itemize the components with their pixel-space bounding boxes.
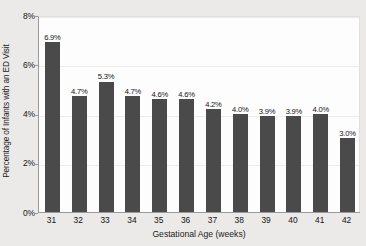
- bar-value-label: 4.7%: [66, 87, 93, 96]
- plot-area: 6.9%4.7%5.3%4.7%4.6%4.6%4.2%4.0%3.9%3.9%…: [38, 16, 360, 213]
- bar-value-label: 3.9%: [254, 107, 281, 116]
- x-axis-line: [38, 212, 360, 213]
- bar-value-label: 3.0%: [334, 129, 361, 138]
- y-tick-label: 4%: [13, 110, 35, 119]
- x-axis-ticks: 313233343536373839404142: [38, 215, 360, 229]
- bar-value-label: 5.3%: [93, 72, 120, 81]
- x-tick-label: 37: [199, 215, 226, 226]
- bar: [72, 96, 87, 212]
- y-tick-label: 6%: [13, 61, 35, 70]
- y-axis-ticks: 0%2%4%6%8%: [10, 0, 35, 246]
- x-tick-label: 41: [306, 215, 333, 226]
- bar-value-label: 4.2%: [200, 100, 227, 109]
- x-tick-label: 42: [333, 215, 360, 226]
- bars-layer: 6.9%4.7%5.3%4.7%4.6%4.6%4.2%4.0%3.9%3.9%…: [39, 17, 359, 212]
- x-axis-title: Gestational Age (weeks): [38, 229, 360, 240]
- bar: [233, 114, 248, 213]
- x-tick-label: 39: [253, 215, 280, 226]
- y-tick-label: 0%: [13, 209, 35, 218]
- bar-value-label: 4.6%: [146, 90, 173, 99]
- x-tick-label: 33: [92, 215, 119, 226]
- bar: [340, 138, 355, 212]
- x-tick-label: 40: [280, 215, 307, 226]
- x-tick-label: 32: [65, 215, 92, 226]
- bar-value-label: 6.9%: [39, 33, 66, 42]
- bar: [286, 116, 301, 212]
- x-tick-label: 35: [145, 215, 172, 226]
- bar: [152, 99, 167, 212]
- bar: [125, 96, 140, 212]
- x-tick-label: 36: [172, 215, 199, 226]
- bar-value-label: 4.0%: [227, 105, 254, 114]
- bar: [179, 99, 194, 212]
- bar: [45, 42, 60, 212]
- bar-value-label: 4.7%: [120, 87, 147, 96]
- bar-value-label: 4.0%: [307, 105, 334, 114]
- y-tick-label: 8%: [13, 12, 35, 21]
- bar-value-label: 4.6%: [173, 90, 200, 99]
- bar-value-label: 3.9%: [281, 107, 308, 116]
- bar-chart: Percentage of Infants with an ED Visit 0…: [0, 0, 366, 246]
- y-tick-label: 2%: [13, 159, 35, 168]
- y-tick-mark: [35, 213, 38, 214]
- bar: [206, 109, 221, 212]
- bar: [313, 114, 328, 213]
- bar: [260, 116, 275, 212]
- bar: [99, 82, 114, 213]
- x-tick-label: 31: [38, 215, 65, 226]
- x-tick-label: 38: [226, 215, 253, 226]
- x-tick-label: 34: [119, 215, 146, 226]
